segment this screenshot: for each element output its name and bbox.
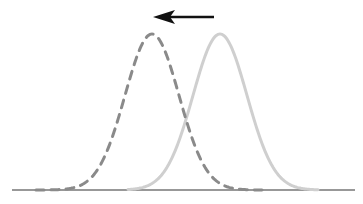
shifted-distribution-curve [36,34,262,190]
distribution-shift-diagram [0,0,363,204]
original-distribution-curve [128,34,318,190]
left-arrow-icon [153,10,214,24]
